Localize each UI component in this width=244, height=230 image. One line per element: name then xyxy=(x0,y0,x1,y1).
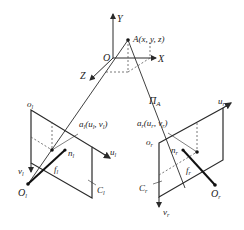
y-axis-label: Y xyxy=(117,13,124,24)
ray-right xyxy=(128,40,185,188)
origin-label: O xyxy=(103,52,110,63)
diagram-svg: Y X Z O A(x, y, z) ΠA ol al xyxy=(0,0,244,230)
left-focal-label: fl xyxy=(54,164,59,175)
right-normal-label: nr xyxy=(171,145,179,156)
left-origin-label: ol xyxy=(27,99,34,110)
right-normal-end xyxy=(181,148,184,151)
left-normal-label: nl xyxy=(68,148,75,159)
left-u-label: ul xyxy=(110,147,117,158)
right-origin-label: or xyxy=(146,137,154,148)
left-optical-center xyxy=(26,182,30,186)
left-point-leader xyxy=(52,134,78,150)
right-optical-center xyxy=(213,183,217,187)
right-optical-center-label: Or xyxy=(211,188,221,200)
epipolar-plane-label: ΠA xyxy=(148,95,161,108)
world-point-label: A(x, y, z) xyxy=(132,34,165,44)
left-plane-label: Cl xyxy=(97,185,105,196)
right-plane-label: Cr xyxy=(139,183,148,194)
right-image-point-label: ar(ur, vr) xyxy=(137,118,168,129)
right-image-plane xyxy=(159,103,231,207)
left-v-label: vl xyxy=(18,166,24,177)
right-u-label: ur xyxy=(218,96,226,107)
left-optical-center-label: Ol xyxy=(18,187,27,199)
right-v-label: vr xyxy=(163,207,170,218)
left-image-point-label: al(ul, vl) xyxy=(79,119,108,130)
right-focal-label: fr xyxy=(186,165,192,176)
stereo-vision-diagram: Y X Z O A(x, y, z) ΠA ol al xyxy=(0,0,244,230)
z-axis-label: Z xyxy=(80,70,86,81)
projection-box-2 xyxy=(128,40,150,72)
x-axis-label: X xyxy=(157,53,165,64)
ray-left xyxy=(28,40,128,184)
right-plane-leader xyxy=(153,181,162,184)
left-normal-end xyxy=(63,148,66,151)
